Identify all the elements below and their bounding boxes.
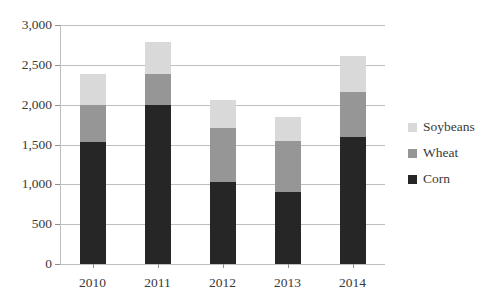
bar-group-2014 bbox=[340, 25, 366, 264]
plot-area bbox=[60, 25, 385, 264]
bar-segment-soybeans-2013 bbox=[275, 117, 301, 141]
x-axis-label-2013: 2013 bbox=[258, 276, 318, 290]
bar-group-2011 bbox=[145, 25, 171, 264]
bar-segment-corn-2012 bbox=[210, 182, 236, 264]
y-tick-mark bbox=[55, 25, 60, 26]
x-tick-mark bbox=[288, 264, 289, 268]
x-axis-label-2012: 2012 bbox=[193, 276, 253, 290]
x-axis-label-2011: 2011 bbox=[128, 276, 188, 290]
legend-swatch-corn-icon bbox=[408, 175, 417, 184]
x-axis-label-2014: 2014 bbox=[323, 276, 383, 290]
y-axis-tick-label: 1,000 bbox=[22, 177, 52, 191]
y-axis-tick-label: 0 bbox=[45, 257, 52, 271]
x-tick-mark bbox=[223, 264, 224, 268]
legend-label: Soybeans bbox=[423, 120, 475, 134]
y-axis-tick-label: 2,500 bbox=[22, 58, 52, 72]
legend-item-soybeans[interactable]: Soybeans bbox=[408, 114, 492, 140]
bar-segment-wheat-2014 bbox=[340, 92, 366, 137]
legend-label: Corn bbox=[423, 172, 450, 186]
bar-segment-soybeans-2011 bbox=[145, 42, 171, 75]
bar-segment-corn-2011 bbox=[145, 105, 171, 264]
bar-segment-corn-2013 bbox=[275, 192, 301, 264]
x-tick-mark bbox=[353, 264, 354, 268]
bar-segment-corn-2014 bbox=[340, 137, 366, 264]
stacked-bar-chart: 05001,0001,5002,0002,5003,000 SoybeansWh… bbox=[0, 0, 494, 303]
legend-item-wheat[interactable]: Wheat bbox=[408, 140, 492, 166]
bar-group-2013 bbox=[275, 25, 301, 264]
bar-segment-wheat-2011 bbox=[145, 74, 171, 105]
x-tick-mark bbox=[93, 264, 94, 268]
y-axis-tick-label: 3,000 bbox=[22, 18, 52, 32]
y-axis-tick-label: 2,000 bbox=[22, 98, 52, 112]
bar-segment-wheat-2012 bbox=[210, 128, 236, 182]
y-axis-labels: 05001,0001,5002,0002,5003,000 bbox=[0, 0, 52, 303]
bar-segment-soybeans-2012 bbox=[210, 100, 236, 128]
x-tick-mark bbox=[158, 264, 159, 268]
y-tick-mark bbox=[55, 224, 60, 225]
legend-label: Wheat bbox=[423, 146, 458, 160]
bar-segment-wheat-2010 bbox=[80, 105, 106, 142]
y-tick-mark bbox=[55, 145, 60, 146]
x-axis-label-2010: 2010 bbox=[63, 276, 123, 290]
bar-group-2012 bbox=[210, 25, 236, 264]
legend-swatch-soybeans-icon bbox=[408, 123, 417, 132]
y-tick-mark bbox=[55, 264, 60, 265]
bar-segment-soybeans-2010 bbox=[80, 74, 106, 105]
bar-segment-soybeans-2014 bbox=[340, 56, 366, 92]
bar-segment-wheat-2013 bbox=[275, 141, 301, 193]
legend-item-corn[interactable]: Corn bbox=[408, 166, 492, 192]
y-tick-mark bbox=[55, 65, 60, 66]
y-tick-mark bbox=[55, 105, 60, 106]
bar-segment-corn-2010 bbox=[80, 142, 106, 264]
chart-legend: SoybeansWheatCorn bbox=[408, 114, 492, 192]
legend-swatch-wheat-icon bbox=[408, 149, 417, 158]
y-tick-mark bbox=[55, 184, 60, 185]
y-axis-tick-label: 500 bbox=[32, 217, 52, 231]
y-axis-tick-label: 1,500 bbox=[22, 138, 52, 152]
bar-group-2010 bbox=[80, 25, 106, 264]
